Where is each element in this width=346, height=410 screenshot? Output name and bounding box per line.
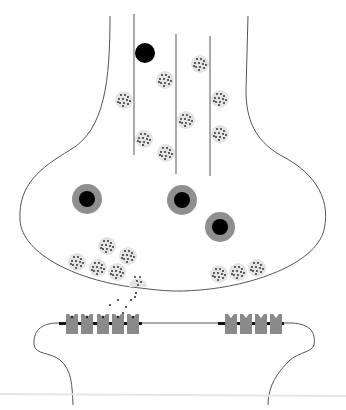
neurotransmitter-dot [142, 144, 144, 146]
neurotransmitter-dot [203, 67, 205, 69]
dark-vesicle [135, 43, 155, 63]
neurotransmitter-dot [123, 102, 125, 104]
neurotransmitter-dot [215, 136, 217, 138]
neurotransmitter-dot [126, 99, 128, 101]
neurotransmitter-dot [115, 277, 117, 279]
neurotransmitter-dot [98, 262, 100, 264]
neurotransmitter-dot [110, 249, 112, 251]
neurotransmitter-dot [164, 158, 166, 160]
neurotransmitter-dot [215, 101, 217, 103]
neurotransmitter-dot [222, 270, 224, 272]
bound-neurotransmitter [71, 316, 73, 318]
neurotransmitter-dot [107, 240, 109, 242]
neurotransmitter-dot [218, 104, 220, 106]
neurotransmitter-dot [147, 135, 149, 137]
neurotransmitter-dot [158, 81, 160, 83]
neurotransmitter-dot [101, 264, 103, 266]
neurotransmitter-dot [184, 125, 186, 127]
neurotransmitter-dot [92, 266, 94, 268]
neurotransmitter-dot [131, 252, 133, 254]
synaptic-vesicle [108, 263, 126, 281]
neurotransmitter-dot [243, 272, 245, 274]
bound-neurotransmitter [102, 316, 104, 318]
neurotransmitter-dot [162, 147, 164, 149]
neurotransmitter-dot [218, 139, 220, 141]
neurotransmitter-dot [255, 266, 257, 268]
neurotransmitter-dot [120, 268, 122, 270]
neurotransmitter-dot [214, 132, 216, 134]
neurotransmitter-dot [217, 272, 219, 274]
bound-neurotransmitter [132, 316, 134, 318]
neurotransmitter-dot [149, 139, 151, 141]
neurotransmitter-dot [216, 128, 218, 130]
neurotransmitter-dot [103, 240, 105, 242]
neurotransmitter-dot [257, 262, 259, 264]
neurotransmitter-dot [110, 273, 112, 275]
neurotransmitter-dot [218, 276, 220, 278]
neurotransmitter-dot [111, 270, 113, 272]
neurotransmitter-dot [225, 99, 227, 101]
neurotransmitter-dot [126, 261, 128, 263]
synaptic-vesicle [157, 144, 175, 162]
neurotransmitter-dot [165, 155, 167, 157]
neurotransmitter-dot [222, 277, 224, 279]
neurotransmitter-dot [128, 250, 130, 252]
synaptic-vesicle [191, 55, 209, 73]
neurotransmitter-dot [251, 266, 253, 268]
neurotransmitter-dot [77, 256, 79, 258]
neurotransmitter-dot [160, 82, 162, 84]
neurotransmitter-dot [122, 254, 124, 256]
neurotransmitter-dot [100, 247, 102, 249]
neurotransmitter-dot [214, 97, 216, 99]
neurotransmitter-dot [217, 279, 219, 281]
neurotransmitter-dot [115, 270, 117, 272]
neurotransmitter-dot [122, 272, 124, 274]
neurotransmitter-dot [71, 260, 73, 262]
neurotransmitter-dot [144, 133, 146, 135]
neurotransmitter-dot [233, 274, 235, 276]
neurotransmitter-dot [212, 275, 214, 277]
neurotransmitter-dot [105, 251, 107, 253]
neurotransmitter-dot [82, 262, 84, 264]
neurotransmitter-dot [167, 79, 169, 81]
bound-neurotransmitter [117, 316, 119, 318]
neurotransmitter-dot [101, 271, 103, 273]
neurotransmitter-dot [223, 137, 225, 139]
synaptic-vesicle [89, 259, 107, 277]
released-neurotransmitter [122, 312, 124, 314]
neurotransmitter-dot [140, 281, 142, 283]
neurotransmitter-dot [179, 121, 181, 123]
neurotransmitter-dot [101, 244, 103, 246]
neurotransmitter-dot [219, 136, 221, 138]
synaptic-vesicle [135, 130, 153, 148]
neurotransmitter-dot [180, 118, 182, 120]
neurotransmitter-dot [129, 100, 131, 102]
neurotransmitter-dot [120, 275, 122, 277]
postsynaptic-membrane-right [268, 323, 314, 405]
neurotransmitter-dot [139, 141, 141, 143]
neurotransmitter-dot [119, 271, 121, 273]
neurotransmitter-dot [103, 268, 105, 270]
synaptic-vesicle [68, 253, 86, 271]
neurotransmitter-dot [213, 100, 215, 102]
neurotransmitter-dot [160, 151, 162, 153]
neurotransmitter-dot [127, 103, 129, 105]
neurotransmitter-dot [113, 266, 115, 268]
synaptic-vesicle [115, 91, 133, 109]
neurotransmitter-dot [260, 271, 262, 273]
neurotransmitter-dot [164, 82, 166, 84]
neurotransmitter-dot [225, 134, 227, 136]
neurotransmitter-dot [112, 246, 114, 248]
neurotransmitter-dot [112, 274, 114, 276]
neurotransmitter-dot [121, 257, 123, 259]
neurotransmitter-dot [188, 119, 190, 121]
neurotransmitter-dot [130, 255, 132, 257]
postsynaptic-membrane [34, 323, 73, 405]
synaptic-vesicle [156, 71, 174, 89]
neurotransmitter-dot [200, 58, 202, 60]
synaptic-vesicle [229, 263, 247, 281]
mitochondrion-core [174, 192, 190, 208]
mitochondrion-core [212, 219, 228, 235]
neurotransmitter-dot [193, 65, 195, 67]
neurotransmitter-dot [186, 114, 188, 116]
